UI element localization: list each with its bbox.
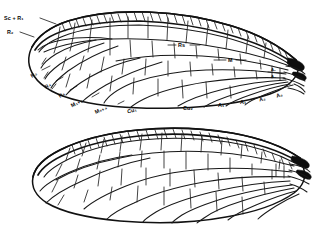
- leader-sc-r1: [40, 18, 56, 24]
- hindwing-panel: [33, 128, 312, 223]
- label-sc-r1: Sc + R₁: [4, 15, 24, 21]
- label-a2-base: A₂: [271, 74, 276, 79]
- label-r2: R₂: [7, 29, 14, 35]
- label-m: M: [228, 57, 233, 63]
- label-rs: Rs: [178, 42, 185, 48]
- leader-r2: [20, 32, 34, 37]
- label-a2: A₂: [258, 95, 266, 102]
- label-cu2: Cu₂: [183, 105, 193, 111]
- forewing-panel: Sc + R₁ R₂ R₃ R₄ R₅ M₁₊₂ M₃₊₄ Cu₁ Cu₂ A₁…: [4, 12, 306, 115]
- label-m3-4: M₃₊₄: [94, 104, 109, 115]
- label-a3: A₃: [275, 91, 283, 99]
- label-a1-base: A₁: [271, 67, 276, 72]
- wing-venation-figure: Sc + R₁ R₂ R₃ R₄ R₅ M₁₊₂ M₃₊₄ Cu₁ Cu₂ A₁…: [0, 0, 316, 232]
- hindwing-outline: [33, 128, 305, 222]
- label-a1-first: A₁: [218, 102, 225, 108]
- wing-venation-svg: Sc + R₁ R₂ R₃ R₄ R₅ M₁₊₂ M₃₊₄ Cu₁ Cu₂ A₁…: [0, 0, 316, 232]
- label-a1-second: A₁: [240, 99, 247, 105]
